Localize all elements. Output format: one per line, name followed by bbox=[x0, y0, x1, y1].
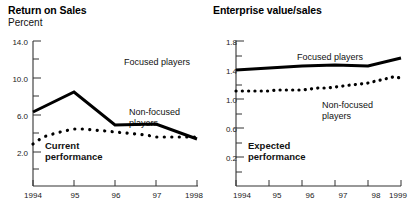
x-ticks bbox=[236, 180, 401, 186]
axis-lines bbox=[33, 41, 198, 186]
chart-panel-return-on-sales: Return on Sales Percent 14.0 10.0 6.0 2.… bbox=[0, 0, 206, 219]
series-line-focused bbox=[236, 58, 401, 70]
plot-svg bbox=[0, 0, 206, 219]
plot-svg bbox=[205, 0, 411, 219]
series-line-focused bbox=[33, 92, 197, 139]
y-ticks bbox=[33, 41, 41, 169]
y-ticks bbox=[236, 41, 244, 172]
plot-area bbox=[0, 0, 206, 219]
chart-panel-enterprise-value-sales: Enterprise value/sales 1.8 1.4 1.0 0.6 0… bbox=[205, 0, 411, 219]
plot-area bbox=[205, 0, 411, 219]
x-ticks bbox=[33, 180, 197, 186]
figure-root: Return on Sales Percent 14.0 10.0 6.0 2.… bbox=[0, 0, 411, 219]
series-line-non-focused bbox=[236, 77, 401, 91]
